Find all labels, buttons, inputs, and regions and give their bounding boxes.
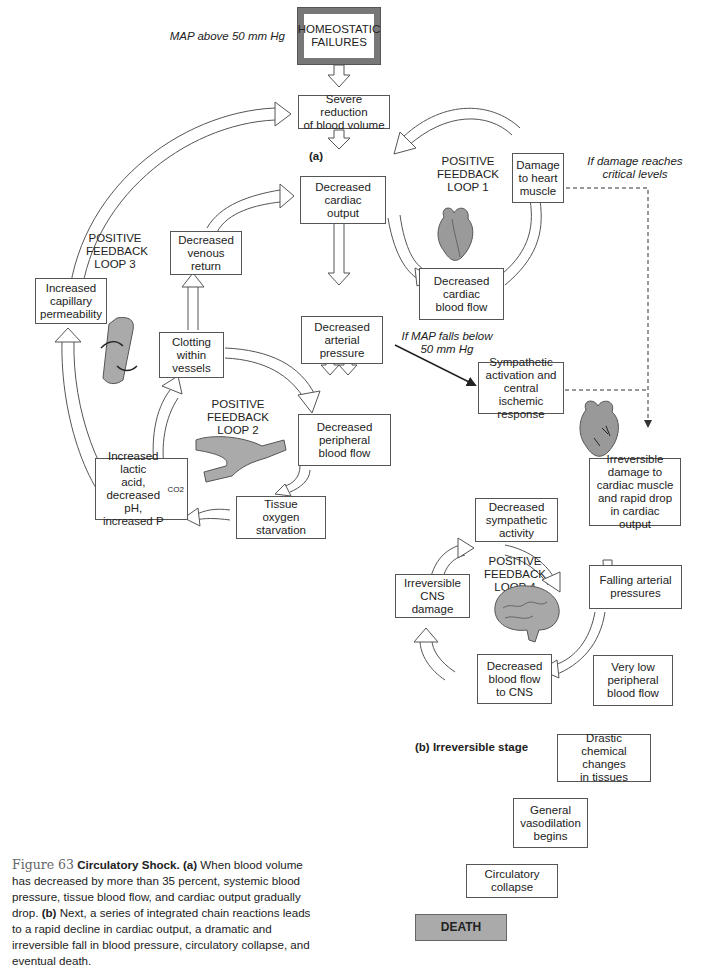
- decreased-arterial-pressure-box: Decreased arterial pressure: [301, 316, 383, 364]
- caption-part-b: (b): [42, 906, 57, 919]
- irreversible-damage-cardiac-box: Irreversible damage to cardiac muscle an…: [589, 458, 681, 526]
- death-box: DEATH: [415, 914, 507, 941]
- irreversible-cns-damage-box: Irreversible CNS damage: [395, 574, 470, 618]
- tissue-oxygen-starvation-box: Tissue oxygen starvation: [236, 496, 326, 539]
- vessel-icon: [95, 310, 145, 390]
- decreased-cardiac-blood-flow-box: Decreased cardiac blood flow: [419, 268, 504, 320]
- drastic-chemical-changes-box: Drastic chemical changes in tissues: [557, 734, 651, 782]
- map-falls-annotation: If MAP falls below 50 mm Hg: [392, 330, 502, 356]
- stage-b-label: (b) Irreversible stage: [415, 741, 528, 754]
- figure-caption: Figure 63 Circulatory Shock. (a) When bl…: [12, 857, 312, 969]
- stage-a-label: (a): [309, 150, 323, 163]
- figure-label: Figure 63: [12, 857, 74, 872]
- falling-arterial-pressures-box: Falling arterial pressures: [589, 565, 682, 609]
- heart-damaged-icon: [572, 398, 632, 463]
- co2-subscript: CO2: [168, 483, 184, 496]
- loop1-label: POSITIVE FEEDBACK LOOP 1: [433, 155, 503, 194]
- map-above-label: MAP above 50 mm Hg: [160, 30, 285, 43]
- decreased-blood-flow-cns-box: Decreased blood flow to CNS: [477, 654, 552, 704]
- caption-part-a: (a): [183, 858, 197, 871]
- decreased-cardiac-output-box: Decreased cardiac output: [300, 176, 386, 224]
- caption-text-b: Next, a series of integrated chain react…: [12, 906, 310, 967]
- lactic-acid-text: Increased lactic acid, decreased pH, inc…: [99, 450, 168, 528]
- loop3-label: POSITIVE FEEDBACK LOOP 3: [86, 232, 144, 271]
- damage-heart-muscle-box: Damage to heart muscle: [512, 153, 564, 203]
- branching-vessels-icon: [192, 426, 292, 486]
- damage-critical-annotation: If damage reaches critical levels: [580, 155, 690, 181]
- decreased-venous-return-box: Decreased venous return: [170, 231, 242, 275]
- general-vasodilation-box: General vasodilation begins: [513, 798, 588, 848]
- severe-reduction-box: Severe reduction of blood volume: [298, 95, 390, 129]
- circulatory-collapse-box: Circulatory collapse: [466, 864, 558, 898]
- clotting-within-vessels-box: Clotting within vessels: [159, 332, 224, 378]
- sympathetic-activation-box: Sympathetic activation and central ische…: [478, 362, 564, 414]
- increased-lactic-acid-box: Increased lactic acid, decreased pH, inc…: [95, 458, 188, 520]
- heart-icon: [432, 205, 482, 265]
- brain-icon: [487, 580, 565, 650]
- homeostatic-failures-box: HOMEOSTATIC FAILURES: [298, 8, 380, 64]
- decreased-peripheral-blood-flow-box: Decreased peripheral blood flow: [298, 414, 391, 466]
- decreased-sympathetic-activity-box: Decreased sympathetic activity: [475, 498, 558, 542]
- caption-title: Circulatory Shock.: [77, 858, 179, 871]
- very-low-peripheral-blood-flow-box: Very low peripheral blood flow: [593, 655, 673, 706]
